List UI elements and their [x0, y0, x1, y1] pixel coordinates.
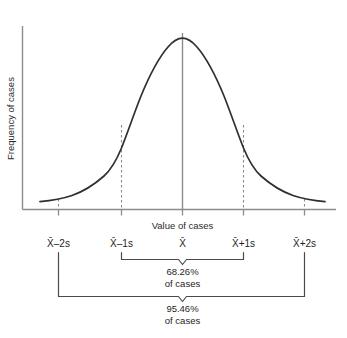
- x-tick-label-mean-base: X̄: [179, 237, 186, 249]
- one-sigma-bracket: [122, 253, 244, 265]
- chart-axes: [23, 26, 337, 210]
- svg-text:X̄+1s: X̄+1s: [232, 237, 255, 249]
- x-tick-label-plus-2s-suffix: +2s: [300, 238, 316, 249]
- x-tick-label-mean: X̄: [179, 237, 186, 249]
- one-sigma-percent-label: 68.26%: [166, 266, 199, 277]
- svg-text:X̄–1s: X̄–1s: [110, 237, 133, 249]
- svg-text:X̄: X̄: [179, 237, 186, 249]
- x-tick-label-minus-2s: X̄–2s: [47, 237, 70, 249]
- two-sigma-bracket: [59, 253, 305, 302]
- x-tick-label-plus-1s: X̄+1s: [232, 237, 255, 249]
- y-axis-label: Frequency of cases: [5, 77, 16, 160]
- svg-text:X̄+2s: X̄+2s: [293, 237, 316, 249]
- x-tick-label-plus-1s-suffix: +1s: [239, 238, 255, 249]
- x-tick-label-minus-1s: X̄–1s: [110, 237, 133, 249]
- x-tick-label-minus-2s-suffix: –2s: [54, 238, 70, 249]
- x-axis-label: Value of cases: [152, 220, 214, 231]
- x-tick-label-plus-2s: X̄+2s: [293, 237, 316, 249]
- svg-text:X̄–2s: X̄–2s: [47, 237, 70, 249]
- two-sigma-caption-label: of cases: [165, 315, 201, 326]
- x-tick-label-minus-1s-suffix: –1s: [117, 238, 133, 249]
- x-axis-ticks: [59, 210, 305, 216]
- x-tick-labels: X̄–2s X̄–1s X̄ X̄+1s X̄+2s: [47, 237, 316, 249]
- one-sigma-caption-label: of cases: [165, 278, 201, 289]
- normal-distribution-figure: Frequency of cases Value of cases X̄–2s …: [0, 0, 347, 338]
- two-sigma-percent-label: 95.46%: [166, 303, 199, 314]
